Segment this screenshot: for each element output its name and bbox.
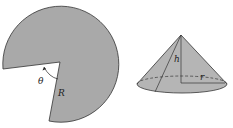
radius-R-label: R [57,88,65,98]
angle-arc-arrow [44,67,58,79]
sector-shape [3,6,119,122]
circular-sector: θ R [3,6,119,122]
height-h-label: h [174,54,180,64]
diagram-canvas: θ R h r [0,0,233,128]
theta-label: θ [38,76,44,86]
cone-body [137,35,227,93]
radius-r-label: r [200,72,205,82]
cone: h r [137,35,227,93]
